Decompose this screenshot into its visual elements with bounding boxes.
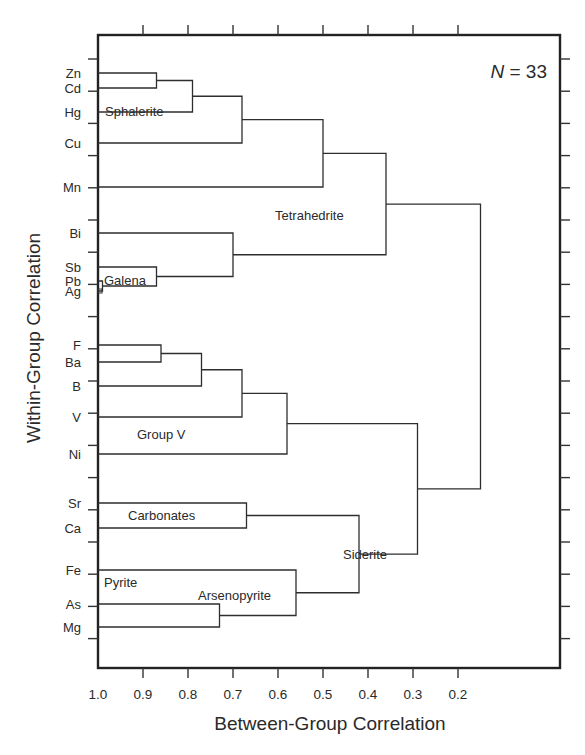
group-label-siderite: Siderite: [343, 547, 387, 562]
leaf-label-bi: Bi: [69, 226, 81, 241]
x-axis-title: Between-Group Correlation: [214, 713, 445, 734]
group-label-galena: Galena: [104, 273, 147, 288]
y-axis-title: Within-Group Correlation: [23, 233, 44, 443]
leaf-label-ba: Ba: [65, 355, 82, 370]
x-tick-label: 0.3: [404, 687, 423, 702]
group-label-carbonates: Carbonates: [128, 508, 196, 523]
x-tick-label: 1.0: [89, 687, 108, 702]
leaf-label-hg: Hg: [64, 105, 81, 120]
group-label-tetrahedrite: Tetrahedrite: [275, 208, 344, 223]
group-label-group-v: Group V: [137, 427, 186, 442]
x-tick-labels: 1.00.90.80.70.60.50.40.30.2: [89, 687, 468, 702]
bottom-ticks: [143, 668, 458, 678]
link-zn_cd: [98, 73, 157, 88]
dendrogram-links: [98, 73, 481, 627]
link-f_ba: [98, 345, 161, 362]
leaf-label-f: F: [73, 338, 81, 353]
right-ticks: [560, 59, 570, 639]
annotation-variable: N: [490, 61, 504, 82]
leaf-label-fe: Fe: [66, 563, 81, 578]
leaf-label-v: V: [72, 410, 81, 425]
annotation-value: = 33: [504, 61, 547, 82]
leaf-label-ni: Ni: [69, 447, 81, 462]
leaf-label-ag: Ag: [65, 284, 81, 299]
x-tick-label: 0.8: [179, 687, 198, 702]
x-tick-label: 0.4: [359, 687, 378, 702]
leaf-label-sb: Sb: [65, 260, 81, 275]
left-ticks: [88, 59, 98, 639]
link-fba_b: [98, 354, 202, 387]
link-as_mg: [98, 604, 220, 627]
plot-frame: [98, 35, 560, 668]
leaf-label-mn: Mn: [63, 180, 81, 195]
sample-size-annotation: N = 33: [490, 61, 547, 82]
leaf-label-cd: Cd: [64, 81, 81, 96]
group-label-pyrite: Pyrite: [104, 575, 137, 590]
link-root: [386, 204, 481, 489]
leaf-labels: ZnCdHgCuMnBiSbPbAgFBaBVNiSrCaFeAsMg: [63, 66, 82, 635]
dendrogram-chart: ZnCdHgCuMnBiSbPbAgFBaBVNiSrCaFeAsMg Spha…: [0, 0, 585, 755]
leaf-label-as: As: [66, 597, 82, 612]
leaf-label-zn: Zn: [66, 66, 81, 81]
link-group_v: [98, 393, 287, 454]
top-ticks: [143, 25, 458, 35]
leaf-label-b: B: [72, 379, 81, 394]
link-v_siderite: [287, 424, 418, 554]
group-label-arsenopyrite: Arsenopyrite: [198, 588, 271, 603]
x-tick-label: 0.2: [449, 687, 468, 702]
x-tick-label: 0.5: [314, 687, 333, 702]
leaf-label-cu: Cu: [64, 136, 81, 151]
link-sph_mn: [98, 120, 323, 187]
link-tetrahedrite: [233, 153, 386, 254]
leaf-label-ca: Ca: [64, 521, 81, 536]
x-tick-label: 0.6: [269, 687, 288, 702]
x-tick-label: 0.9: [134, 687, 153, 702]
x-tick-label: 0.7: [224, 687, 243, 702]
leaf-label-mg: Mg: [63, 620, 81, 635]
group-label-sphalerite: Sphalerite: [105, 104, 164, 119]
link-bi_galena: [98, 233, 233, 277]
link-fbab_v: [98, 370, 242, 417]
leaf-label-sr: Sr: [68, 496, 82, 511]
